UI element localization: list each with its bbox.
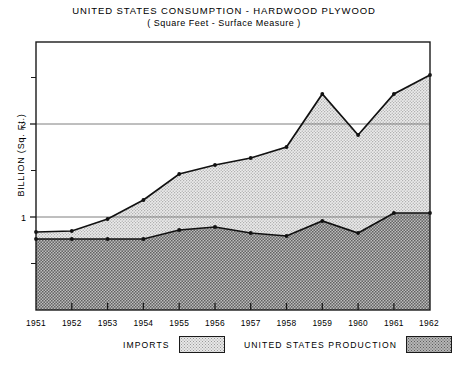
legend-swatch-production: [406, 336, 452, 353]
legend-swatch-imports: [179, 336, 225, 353]
xtick-1958: 1958: [277, 318, 297, 328]
xtick-1961: 1961: [384, 318, 404, 328]
chart-legend: IMPORTS UNITED STATES PRODUCTION: [0, 333, 448, 363]
xtick-1952: 1952: [62, 318, 82, 328]
ytick-1: 1: [21, 213, 26, 223]
ytick-2: 2: [21, 120, 26, 130]
xtick-1951: 1951: [26, 318, 46, 328]
xtick-1955: 1955: [169, 318, 189, 328]
legend-item-production: UNITED STATES PRODUCTION: [244, 336, 452, 353]
x-axis-tick-labels: 1951 1952 1953 1954 1955 1956 1957 1958 …: [26, 318, 439, 328]
xtick-1959: 1959: [312, 318, 332, 328]
legend-item-imports: IMPORTS: [123, 336, 225, 353]
xtick-1962: 1962: [419, 318, 439, 328]
xtick-1953: 1953: [98, 318, 118, 328]
y-axis-ticks: [30, 78, 36, 264]
series-areas: [36, 75, 430, 310]
xtick-1960: 1960: [348, 318, 368, 328]
legend-label-production: UNITED STATES PRODUCTION: [244, 340, 397, 350]
legend-label-imports: IMPORTS: [123, 340, 170, 350]
area-imports: [36, 75, 430, 239]
xtick-1957: 1957: [241, 318, 261, 328]
xtick-1956: 1956: [205, 318, 225, 328]
y-axis-tick-labels: 1 2: [21, 120, 26, 223]
xtick-1954: 1954: [133, 318, 153, 328]
